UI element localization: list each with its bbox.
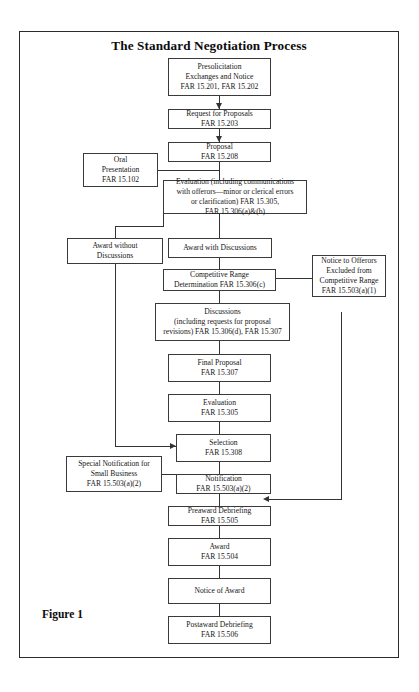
node-discussions-line1: Discussions [204, 307, 240, 317]
node-special-notification[interactable]: Special Notification for Small Business … [66, 456, 162, 492]
node-selection[interactable]: Selection FAR 15.308 [176, 434, 271, 462]
node-preaward-debriefing[interactable]: Preaward Debriefing FAR 15.505 [168, 506, 271, 526]
node-postaward-debriefing-line1: Postaward Debriefing [186, 620, 252, 630]
node-presolicitation-line2: Exchanges and Notice [186, 72, 254, 82]
connector-notice-of-award-to-postaward [219, 604, 220, 616]
page-title: The Standard Negotiation Process [25, 38, 393, 54]
node-special-notification-line1: Special Notification for [78, 459, 150, 469]
node-notice-to-offerors-line2: Excluded from [326, 266, 371, 276]
connector-award-without-left-rail [115, 264, 116, 446]
connector-award-with-to-competitive-range [219, 258, 220, 269]
node-award-without-discussions[interactable]: Award without Discussions [67, 238, 163, 264]
connector-selection-to-notification [219, 462, 220, 474]
node-preaward-debriefing-line2: FAR 15.505 [201, 516, 238, 526]
connector-notification-to-preaward [219, 494, 220, 506]
node-notification[interactable]: Notification FAR 15.503(a)(2) [176, 474, 271, 494]
node-preaward-debriefing-line1: Preaward Debriefing [188, 506, 251, 516]
node-discussions-line2: (including requests for proposal [174, 317, 271, 327]
node-postaward-debriefing[interactable]: Postaward Debriefing FAR 15.506 [168, 616, 271, 644]
node-evaluation-second-line2: FAR 15.305 [201, 408, 238, 418]
node-proposal-line2: FAR 15.208 [201, 152, 238, 162]
node-notice-of-award-line1: Notice of Award [195, 586, 245, 596]
node-competitive-range-line2: Determination FAR 15.306(c) [174, 280, 265, 290]
node-postaward-debriefing-line2: FAR 15.506 [201, 630, 238, 640]
node-evaluation-main-line1: Evaluation (including communications [176, 177, 294, 187]
node-proposal[interactable]: Proposal FAR 15.208 [168, 142, 271, 162]
node-notice-to-offerors-line1: Notice to Offerors [321, 256, 377, 266]
node-evaluation-second-line1: Evaluation [203, 398, 236, 408]
connector-award-to-notice-of-award [219, 566, 220, 578]
node-evaluation-main-line4: FAR 15.306(a)&(b) [205, 207, 265, 217]
connector-competitive-range-to-notice [276, 278, 312, 279]
node-selection-line1: Selection [209, 438, 237, 448]
node-oral-presentation-line3: FAR 15.102 [102, 175, 139, 185]
node-oral-presentation-line2: Presentation [102, 165, 140, 175]
node-final-proposal-line2: FAR 15.307 [201, 368, 238, 378]
node-presolicitation-line3: FAR 15.201, FAR 15.202 [181, 82, 259, 92]
arrowhead-left-preaward [263, 496, 269, 502]
node-selection-line2: FAR 15.308 [205, 448, 242, 458]
node-evaluation-main-line3: or clarification) FAR 15.305, [191, 197, 279, 207]
node-competitive-range-line1: Competitive Range [190, 270, 249, 280]
connector-discussions-to-final-proposal [219, 341, 220, 354]
connector-evaluation2-to-selection [219, 422, 220, 434]
node-award-line1: Award [210, 542, 230, 552]
figure-caption: Figure 1 [42, 608, 83, 620]
connector-evaluation-to-award-without [115, 226, 164, 227]
node-final-proposal[interactable]: Final Proposal FAR 15.307 [168, 354, 271, 382]
node-request-for-proposals[interactable]: Request for Proposals FAR 15.203 [168, 109, 271, 129]
node-evaluation-second[interactable]: Evaluation FAR 15.305 [168, 394, 271, 422]
node-presolicitation[interactable]: Presolicitation Exchanges and Notice FAR… [168, 58, 271, 96]
node-award[interactable]: Award FAR 15.504 [168, 538, 271, 566]
flowchart-canvas: The Standard Negotiation Process [0, 0, 419, 692]
node-award-with-discussions-line1: Award with Discussions [183, 243, 257, 253]
node-award-with-discussions[interactable]: Award with Discussions [168, 238, 272, 258]
connector-competitive-range-to-discussions [219, 291, 220, 303]
node-discussions[interactable]: Discussions (including requests for prop… [155, 303, 290, 341]
node-notice-to-offerors-line3: Competitive Range [320, 276, 379, 286]
node-notification-line2: FAR 15.503(a)(2) [196, 484, 250, 494]
node-notification-line1: Notification [205, 474, 242, 484]
node-oral-presentation[interactable]: Oral Presentation FAR 15.102 [83, 153, 158, 187]
node-presolicitation-line1: Presolicitation [198, 62, 242, 72]
node-special-notification-line2: Small Business [91, 469, 138, 479]
node-award-line2: FAR 15.504 [201, 552, 238, 562]
connector-left-rail-to-selection [115, 446, 176, 447]
node-discussions-line3: revisions) FAR 15.306(d), FAR 15.307 [163, 327, 281, 337]
connector-evaluation-left-stub-down [163, 214, 164, 226]
node-notice-to-offerors[interactable]: Notice to Offerors Excluded from Competi… [312, 255, 386, 297]
node-notice-of-award[interactable]: Notice of Award [168, 578, 271, 604]
node-rfp-line2: FAR 15.203 [201, 119, 238, 129]
connector-down-to-award-without [115, 226, 116, 238]
node-final-proposal-line1: Final Proposal [197, 358, 241, 368]
connector-oral-presentation-to-trunk [158, 170, 219, 171]
connector-preaward-to-award [219, 526, 220, 538]
node-notice-to-offerors-line4: FAR 15.503(a)(1) [322, 286, 376, 296]
node-competitive-range[interactable]: Competitive Range Determination FAR 15.3… [163, 269, 276, 291]
node-special-notification-line3: FAR 15.503(a)(2) [87, 479, 141, 489]
node-oral-presentation-line1: Oral [114, 155, 128, 165]
node-evaluation-main-line2: with offerors—minor or clerical errors [176, 187, 293, 197]
node-rfp-line1: Request for Proposals [186, 109, 253, 119]
node-evaluation-main[interactable]: Evaluation (including communications wit… [163, 180, 307, 214]
connector-special-notification-to-notification [162, 474, 176, 475]
connector-final-proposal-to-evaluation2 [219, 382, 220, 394]
node-proposal-line1: Proposal [206, 142, 233, 152]
connector-evaluation-to-award-with [219, 214, 220, 238]
node-award-without-discussions-line2: Discussions [97, 251, 133, 261]
connector-notice-right-rail [341, 312, 342, 499]
connector-right-rail-to-preaward [268, 499, 342, 500]
node-award-without-discussions-line1: Award without [92, 241, 137, 251]
